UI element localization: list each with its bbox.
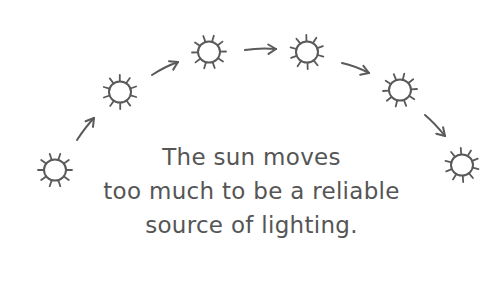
sun-icon	[104, 75, 136, 109]
arrow-icon	[425, 115, 445, 136]
arrow-icon	[245, 45, 276, 54]
illustration-canvas: The sun moves too much to be a reliable …	[0, 0, 503, 293]
caption: The sun moves too much to be a reliable …	[0, 140, 503, 242]
sun-icon	[291, 35, 324, 69]
caption-line-1: The sun moves	[0, 140, 503, 174]
arrow-icon	[152, 61, 178, 75]
caption-line-2: too much to be a reliable	[0, 174, 503, 208]
sun-icon	[192, 36, 226, 69]
caption-line-3: source of lighting.	[0, 208, 503, 242]
sun-icon	[383, 74, 417, 107]
arrow-icon	[77, 118, 94, 140]
arrow-icon	[342, 63, 369, 75]
